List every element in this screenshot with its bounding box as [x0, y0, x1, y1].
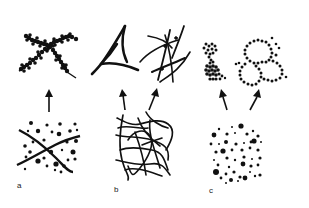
- panel-b-top-node: [92, 26, 138, 74]
- arrow-up-icon: [119, 89, 127, 110]
- panel-label-a: a: [17, 181, 22, 190]
- diagram-figure: a b: [0, 0, 309, 208]
- panel-a-top-structure: [19, 32, 78, 78]
- panel-c-top-cluster: [203, 43, 227, 81]
- panel-label-c: c: [209, 186, 213, 195]
- panel-a-bottom-dispersion: [17, 121, 80, 173]
- panel-c-top-ring-network: [235, 37, 288, 87]
- arrow-up-icon: [45, 89, 53, 112]
- arrow-up-icon: [250, 89, 261, 110]
- arrow-up-icon: [219, 89, 227, 110]
- panel-c-bottom-dispersion: [210, 123, 262, 184]
- panel-label-b: b: [114, 185, 119, 194]
- arrow-up-icon: [149, 88, 159, 110]
- panel-b-top-crossed-fibers: [140, 26, 190, 82]
- panel-b-bottom-mesh: [116, 112, 172, 180]
